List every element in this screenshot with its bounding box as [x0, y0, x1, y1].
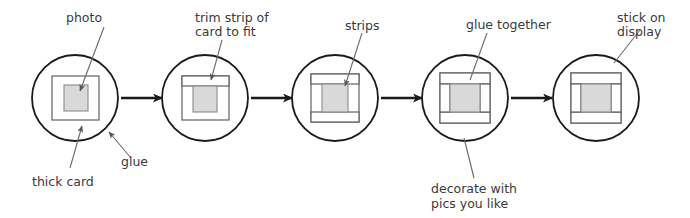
step-5-right-strip: [611, 84, 621, 112]
step-4-bottom-strip: [440, 112, 490, 123]
step-1-photo: [64, 85, 88, 111]
step-1-node[interactable]: [32, 55, 118, 141]
label-trim-strip-line1: trim strip of: [195, 10, 269, 25]
step-3-top-strip: [311, 74, 359, 84]
label-glue-together: glue together: [466, 17, 552, 32]
label-photo: photo: [66, 10, 102, 25]
step-3-photo: [322, 84, 348, 112]
label-decorate-line1: decorate with: [431, 181, 517, 196]
step-5-left-strip: [571, 84, 581, 112]
label-stick-on-display-line2: display: [617, 24, 662, 39]
step-3-bottom-strip: [311, 112, 359, 122]
label-trim-strip-line2: card to fit: [195, 24, 256, 39]
step-5-node[interactable]: [553, 55, 639, 141]
label-glue: glue: [121, 154, 148, 169]
step-2-node[interactable]: [162, 55, 248, 141]
label-decorate-line2: pics you like: [431, 196, 508, 211]
step-4-node[interactable]: [422, 55, 508, 141]
step-4-left-strip: [440, 84, 450, 112]
step-4-photo: [450, 84, 480, 112]
step-5-bottom-strip: [571, 112, 621, 123]
process-flow-diagram: photo trim strip of card to fit strips g…: [0, 0, 690, 218]
step-4-top-strip: [440, 73, 490, 84]
step-5-photo: [581, 84, 611, 112]
label-strips: strips: [345, 18, 379, 33]
step-5-top-strip: [571, 73, 621, 84]
label-stick-on-display-line1: stick on: [617, 10, 666, 25]
step-2-top-strip: [182, 76, 229, 86]
label-thick-card: thick card: [32, 174, 94, 189]
step-3-node[interactable]: [292, 55, 378, 141]
step-4-right-strip: [480, 84, 490, 112]
leader-decorate: [464, 138, 474, 178]
step-2-photo: [193, 86, 217, 112]
diagram-canvas: photo trim strip of card to fit strips g…: [0, 0, 690, 218]
